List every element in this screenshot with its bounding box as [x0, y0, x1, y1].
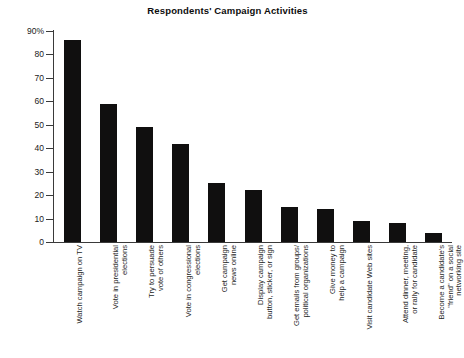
x-axis-category-labels: Watch campaign on TVVote in presidential… [54, 245, 452, 358]
x-axis-category-label: Vote in congressional elections [185, 245, 202, 353]
bar [281, 207, 298, 242]
x-axis-category-label: Get emails from groups/ political organi… [293, 245, 310, 353]
x-axis-category-label: Vote in presidential elections [112, 245, 129, 353]
bar [425, 233, 442, 242]
y-axis-tick [46, 242, 53, 243]
plot-area [54, 31, 452, 242]
bar [245, 190, 262, 242]
x-axis-category-label: Visit candidate Web sites [366, 245, 375, 353]
page-title: Respondents' Campaign Activities [0, 5, 455, 16]
bar [389, 223, 406, 242]
y-axis-tick [46, 31, 53, 32]
y-axis-tick [46, 125, 53, 126]
y-axis-tick-label: 70 [0, 73, 44, 83]
bar [172, 144, 189, 242]
y-axis-tick-label: 50 [0, 120, 44, 130]
y-axis-tick-label: 60 [0, 96, 44, 106]
bar [100, 104, 117, 242]
y-axis-tick-label: 40 [0, 143, 44, 153]
x-axis-category-label: Give money to help a campaign [329, 245, 346, 353]
bar [353, 221, 370, 242]
y-axis-tick-label: 30 [0, 167, 44, 177]
x-axis-line [53, 242, 452, 243]
y-axis-tick-labels: 90%80706050403020100 [0, 0, 44, 358]
y-axis-tick-label: 10 [0, 214, 44, 224]
bar [64, 40, 81, 242]
y-axis-tick-label: 0 [0, 237, 44, 247]
y-axis-tick [46, 219, 53, 220]
x-axis-category-label: Watch campaign on TV [76, 245, 85, 353]
y-axis-tick-label: 20 [0, 190, 44, 200]
bar [136, 127, 153, 242]
y-axis-tick [46, 101, 53, 102]
bar [317, 209, 334, 242]
y-axis-tick [46, 78, 53, 79]
x-axis-category-label: Attend dinner, meeting, or rally for can… [402, 245, 419, 353]
y-axis-tick [46, 195, 53, 196]
y-axis-tick [46, 172, 53, 173]
x-axis-category-label: Try to persuade vote of others [148, 245, 165, 353]
x-axis-category-label: Get campaign news online [221, 245, 238, 353]
x-axis-category-label: Display campaign button, sticker, or sig… [257, 245, 274, 353]
y-axis-tick [46, 54, 53, 55]
bar [208, 183, 225, 242]
y-axis-tick [46, 148, 53, 149]
x-axis-category-label: Become a candidate's "friend" on a socia… [438, 245, 464, 353]
y-axis-tick-label: 90% [0, 26, 44, 36]
y-axis-tick-label: 80 [0, 49, 44, 59]
